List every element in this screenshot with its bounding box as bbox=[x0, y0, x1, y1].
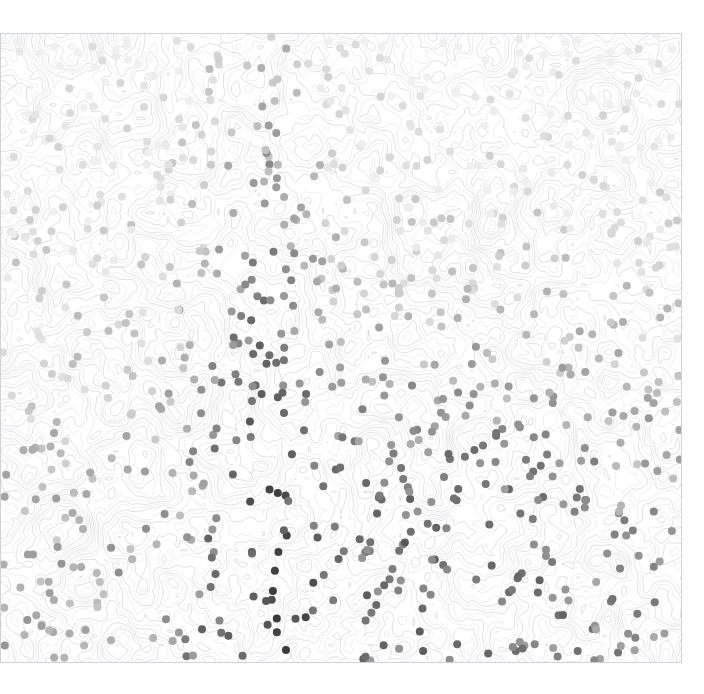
scatter-point[interactable] bbox=[128, 555, 136, 563]
scatter-point[interactable] bbox=[176, 343, 184, 351]
scatter-point[interactable] bbox=[209, 76, 217, 84]
scatter-point[interactable] bbox=[581, 504, 589, 512]
scatter-point[interactable] bbox=[74, 353, 82, 361]
scatter-point[interactable] bbox=[35, 332, 43, 340]
scatter-point[interactable] bbox=[224, 162, 232, 170]
scatter-point[interactable] bbox=[141, 468, 149, 476]
scatter-point[interactable] bbox=[232, 370, 240, 378]
scatter-point[interactable] bbox=[445, 450, 453, 458]
scatter-point[interactable] bbox=[332, 285, 340, 293]
scatter-point[interactable] bbox=[262, 146, 270, 154]
scatter-point[interactable] bbox=[274, 548, 282, 556]
scatter-point[interactable] bbox=[442, 413, 450, 421]
scatter-point[interactable] bbox=[613, 259, 621, 267]
scatter-point[interactable] bbox=[137, 261, 145, 269]
scatter-point[interactable] bbox=[376, 270, 384, 278]
scatter-point[interactable] bbox=[93, 202, 101, 210]
scatter-point[interactable] bbox=[525, 54, 533, 62]
scatter-point[interactable] bbox=[667, 133, 675, 141]
scatter-point[interactable] bbox=[310, 522, 318, 530]
scatter-point[interactable] bbox=[329, 298, 337, 306]
scatter-point[interactable] bbox=[446, 148, 454, 156]
scatter-point[interactable] bbox=[519, 644, 527, 652]
scatter-point[interactable] bbox=[325, 341, 333, 349]
scatter-point[interactable] bbox=[577, 457, 585, 465]
scatter-point[interactable] bbox=[472, 576, 480, 584]
scatter-point[interactable] bbox=[319, 482, 327, 490]
scatter-point[interactable] bbox=[215, 55, 223, 63]
scatter-point[interactable] bbox=[474, 161, 482, 169]
scatter-point[interactable] bbox=[363, 546, 371, 554]
scatter-point[interactable] bbox=[338, 84, 346, 92]
scatter-point[interactable] bbox=[622, 105, 630, 113]
scatter-point[interactable] bbox=[205, 88, 213, 96]
scatter-point[interactable] bbox=[109, 161, 117, 169]
scatter-point[interactable] bbox=[588, 330, 596, 338]
scatter-point[interactable] bbox=[59, 203, 67, 211]
scatter-point[interactable] bbox=[675, 100, 682, 108]
scatter-point[interactable] bbox=[389, 565, 397, 573]
scatter-point[interactable] bbox=[79, 525, 87, 533]
scatter-point[interactable] bbox=[644, 394, 652, 402]
scatter-point[interactable] bbox=[127, 411, 135, 419]
scatter-point[interactable] bbox=[401, 539, 409, 547]
scatter-point[interactable] bbox=[590, 457, 598, 465]
scatter-point[interactable] bbox=[540, 132, 548, 140]
scatter-point[interactable] bbox=[82, 490, 90, 498]
scatter-point[interactable] bbox=[561, 585, 569, 593]
scatter-point[interactable] bbox=[96, 578, 104, 586]
scatter-point[interactable] bbox=[282, 265, 290, 273]
scatter-point[interactable] bbox=[562, 254, 570, 262]
scatter-point[interactable] bbox=[81, 626, 89, 634]
scatter-point[interactable] bbox=[153, 171, 161, 179]
scatter-point[interactable] bbox=[428, 289, 436, 297]
scatter-point[interactable] bbox=[396, 227, 404, 235]
scatter-point[interactable] bbox=[656, 557, 664, 565]
scatter-point[interactable] bbox=[266, 296, 274, 304]
scatter-point[interactable] bbox=[249, 382, 257, 390]
scatter-point[interactable] bbox=[96, 191, 104, 199]
scatter-point[interactable] bbox=[542, 431, 550, 439]
scatter-point[interactable] bbox=[287, 276, 295, 284]
scatter-point[interactable] bbox=[419, 218, 427, 226]
scatter-point[interactable] bbox=[93, 569, 101, 577]
scatter-point[interactable] bbox=[404, 312, 412, 320]
scatter-point[interactable] bbox=[493, 417, 501, 425]
scatter-point[interactable] bbox=[619, 412, 627, 420]
scatter-point[interactable] bbox=[612, 462, 620, 470]
scatter-point[interactable] bbox=[395, 194, 403, 202]
scatter-point[interactable] bbox=[491, 380, 499, 388]
scatter-point[interactable] bbox=[668, 527, 676, 535]
scatter-point[interactable] bbox=[419, 647, 427, 655]
scatter-point[interactable] bbox=[498, 597, 506, 605]
scatter-point[interactable] bbox=[464, 285, 472, 293]
scatter-point[interactable] bbox=[317, 84, 325, 92]
scatter-point[interactable] bbox=[85, 92, 93, 100]
scatter-point[interactable] bbox=[531, 640, 539, 648]
scatter-point[interactable] bbox=[663, 451, 671, 459]
scatter-point[interactable] bbox=[63, 281, 71, 289]
scatter-point[interactable] bbox=[267, 33, 275, 41]
scatter-point[interactable] bbox=[32, 495, 40, 503]
scatter-point[interactable] bbox=[20, 631, 28, 639]
scatter-point[interactable] bbox=[335, 555, 343, 563]
scatter-point[interactable] bbox=[263, 360, 271, 368]
scatter-point[interactable] bbox=[79, 161, 87, 169]
scatter-point[interactable] bbox=[213, 269, 221, 277]
scatter-point[interactable] bbox=[211, 376, 219, 384]
scatter-point[interactable] bbox=[224, 632, 232, 640]
scatter-point[interactable] bbox=[656, 225, 664, 233]
scatter-point[interactable] bbox=[567, 371, 575, 379]
scatter-point[interactable] bbox=[497, 160, 505, 168]
scatter-point[interactable] bbox=[490, 107, 498, 115]
scatter-point[interactable] bbox=[484, 650, 492, 658]
scatter-point[interactable] bbox=[406, 495, 414, 503]
scatter-point[interactable] bbox=[454, 485, 462, 493]
scatter-point[interactable] bbox=[487, 95, 495, 103]
scatter-point[interactable] bbox=[197, 386, 205, 394]
scatter-point[interactable] bbox=[161, 510, 169, 518]
scatter-point[interactable] bbox=[50, 429, 58, 437]
scatter-point[interactable] bbox=[169, 637, 177, 645]
scatter-point[interactable] bbox=[380, 479, 388, 487]
scatter-point[interactable] bbox=[573, 493, 581, 501]
